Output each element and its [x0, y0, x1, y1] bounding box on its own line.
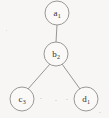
- node-label-c3: c3: [19, 95, 26, 104]
- node-letter-b2: b: [52, 49, 57, 59]
- node-subscript-d1: 1: [87, 99, 90, 105]
- tree-diagram-canvas: a1 b2 c3 d1: [0, 0, 109, 118]
- node-label-b2: b2: [52, 50, 60, 59]
- node-label-a1: a1: [54, 9, 61, 18]
- node-letter-d1: d: [82, 94, 87, 104]
- edge-b2-c3: [28, 64, 50, 89]
- node-subscript-b2: 2: [57, 54, 60, 60]
- tree-diagram-svg: [0, 0, 109, 118]
- edge-a1-b2: [56, 25, 57, 42]
- node-subscript-c3: 3: [23, 99, 26, 105]
- node-subscript-a1: 1: [58, 13, 61, 19]
- node-label-d1: d1: [82, 95, 90, 104]
- edge-b2-d1: [62, 64, 80, 89]
